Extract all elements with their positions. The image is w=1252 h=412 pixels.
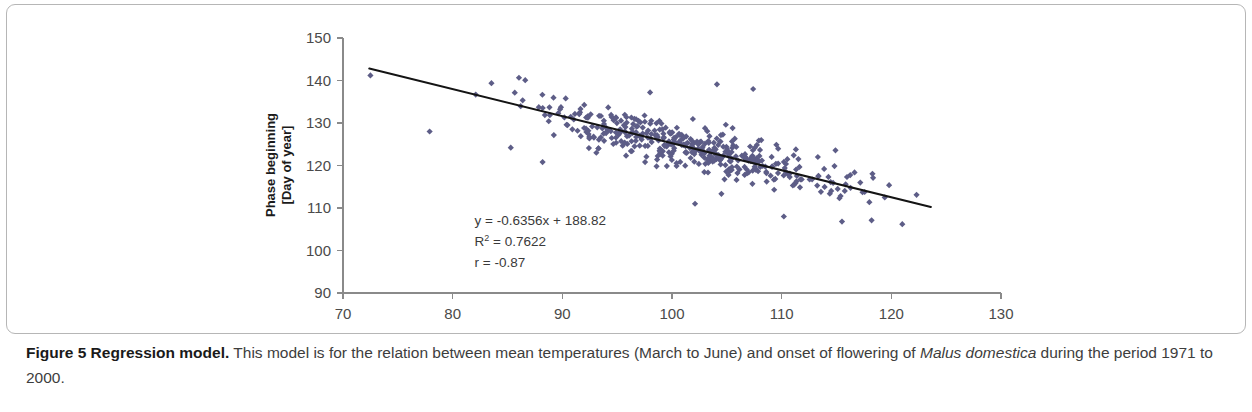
r-squared-label: R2 = 0.7622: [475, 233, 546, 249]
scatter-point: [822, 184, 828, 190]
scatter-point: [913, 192, 919, 198]
scatter-point: [574, 128, 580, 134]
scatter-point: [569, 126, 575, 132]
scatter-point: [705, 169, 711, 175]
scatter-point: [488, 80, 494, 86]
scatter-point: [723, 122, 729, 128]
scatter-point: [546, 118, 552, 124]
scatter-point: [631, 143, 637, 149]
scatter-point: [899, 221, 905, 227]
scatter-point: [718, 191, 724, 197]
y-tick-label: 90: [314, 284, 331, 301]
scatter-point: [781, 213, 787, 219]
scatter-point: [546, 104, 552, 110]
scatter-point: [522, 77, 528, 83]
scatter-point: [714, 81, 720, 87]
scatter-point: [730, 125, 736, 131]
y-axis-title-line1: Phase beginning: [263, 113, 278, 217]
scatter-point: [764, 178, 770, 184]
x-tick-label: 100: [659, 305, 684, 322]
scatter-point: [605, 104, 611, 110]
scatter-point: [550, 95, 556, 101]
scatter-point: [516, 75, 522, 81]
scatter-point: [637, 143, 643, 149]
scatter-point: [664, 163, 670, 169]
scatter-point: [539, 159, 545, 165]
scatter-point: [692, 201, 698, 207]
x-tick-label: 110: [770, 305, 794, 322]
scatter-point: [660, 131, 666, 137]
regression-scatter-plot: Phase beginning [Day of year] 9010011012…: [7, 5, 1247, 335]
chart-canvas: Phase beginning [Day of year] 9010011012…: [7, 5, 1247, 335]
scatter-point: [814, 182, 820, 188]
scatter-point: [628, 148, 634, 154]
scatter-point: [721, 176, 727, 182]
figure-caption: Figure 5 Regression model. This model is…: [26, 340, 1231, 390]
scatter-point: [866, 199, 872, 205]
y-tick-label: 110: [307, 199, 331, 216]
correlation-label: r = -0.87: [475, 255, 526, 270]
x-tick-label: 130: [988, 305, 1013, 322]
x-tick-label: 80: [444, 305, 461, 322]
scatter-point: [642, 159, 648, 165]
scatter-point: [775, 170, 781, 176]
scatter-point: [797, 184, 803, 190]
scatter-point: [427, 128, 433, 134]
x-axis-ticks: 708090100110120130: [335, 293, 1014, 322]
scatter-point: [367, 72, 373, 78]
scatter-point: [750, 86, 756, 92]
scatter-point: [647, 89, 653, 95]
scatter-point: [581, 102, 587, 108]
caption-title: Figure 5 Regression model.: [26, 344, 229, 361]
x-axis-title: Temperature [°C/10]: [614, 333, 737, 335]
y-tick-label: 120: [306, 157, 331, 174]
scatter-point: [815, 154, 821, 160]
scatter-point: [722, 162, 728, 168]
scatter-point: [870, 175, 876, 181]
scatter-point-group: [367, 72, 919, 227]
scatter-point: [857, 179, 863, 185]
scatter-point: [551, 132, 557, 138]
scatter-point: [539, 92, 545, 98]
scatter-point: [641, 112, 647, 118]
figure-page: Phase beginning [Day of year] 9010011012…: [0, 0, 1252, 412]
scatter-point: [623, 153, 629, 159]
scatter-point: [682, 163, 688, 169]
x-tick-label: 120: [879, 305, 904, 322]
scatter-point: [793, 146, 799, 152]
scatter-point: [643, 154, 649, 160]
scatter-point: [640, 124, 646, 130]
y-tick-label: 130: [306, 114, 331, 131]
scatter-point: [831, 163, 837, 169]
scatter-point: [601, 118, 607, 124]
x-tick-label: 70: [335, 305, 352, 322]
regression-annotation: y = -0.6356x + 188.82 R2 = 0.7622 r = -0…: [475, 213, 606, 270]
scatter-point: [653, 163, 659, 169]
scatter-point: [835, 186, 841, 192]
scatter-point: [508, 145, 514, 151]
scatter-point: [771, 187, 777, 193]
scatter-point: [868, 217, 874, 223]
y-axis-title: Phase beginning [Day of year]: [263, 113, 294, 217]
caption-species-name: Malus domestica: [920, 344, 1036, 361]
scatter-point: [791, 152, 797, 158]
scatter-point: [839, 219, 845, 225]
figure-panel: Phase beginning [Day of year] 9010011012…: [6, 4, 1246, 334]
y-axis-ticks: 90100110120130140150: [306, 29, 343, 301]
scatter-point: [769, 154, 775, 160]
scatter-point: [832, 147, 838, 153]
scatter-point: [512, 90, 518, 96]
scatter-point: [674, 125, 680, 131]
y-tick-label: 140: [306, 72, 331, 89]
scatter-point: [642, 119, 648, 125]
y-tick-label: 100: [306, 242, 331, 259]
x-tick-label: 90: [554, 305, 571, 322]
scatter-point: [749, 181, 755, 187]
caption-body-1: This model is for the relation between m…: [229, 344, 920, 361]
y-tick-label: 150: [306, 29, 331, 46]
scatter-point: [586, 145, 592, 151]
scatter-point: [795, 156, 801, 162]
scatter-point: [818, 189, 824, 195]
scatter-point: [842, 188, 848, 194]
scatter-point: [520, 97, 526, 103]
